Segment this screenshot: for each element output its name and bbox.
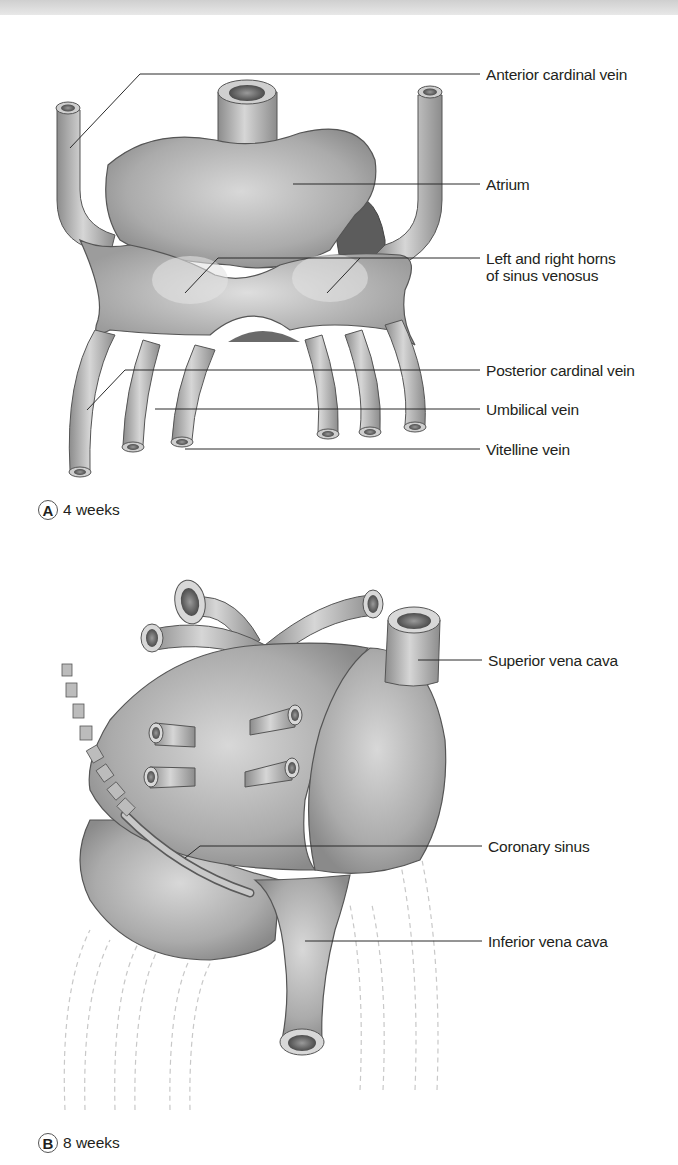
panel-a-caption: A 4 weeks — [38, 500, 120, 520]
panel-b-drawing — [62, 578, 482, 1110]
label-atrium: Atrium — [486, 176, 530, 194]
label-inferior-vena-cava: Inferior vena cava — [488, 933, 608, 951]
label-posterior-cardinal-vein: Posterior cardinal vein — [486, 362, 635, 380]
panel-a-age: 4 weeks — [63, 501, 120, 519]
panel-a-drawing — [56, 74, 480, 477]
label-umbilical-vein: Umbilical vein — [486, 401, 579, 419]
label-sinus-venosus-line2: of sinus venosus — [486, 267, 598, 285]
label-superior-vena-cava: Superior vena cava — [488, 652, 618, 670]
panel-letter-a: A — [38, 500, 58, 520]
label-coronary-sinus: Coronary sinus — [488, 838, 589, 856]
label-sinus-venosus-line1: Left and right horns — [486, 250, 616, 268]
heart-development-illustration — [0, 0, 678, 1165]
panel-b-caption: B 8 weeks — [38, 1133, 120, 1153]
label-vitelline-vein: Vitelline vein — [486, 441, 570, 459]
panel-b-age: 8 weeks — [63, 1134, 120, 1152]
panel-letter-b: B — [38, 1133, 58, 1153]
label-anterior-cardinal-vein: Anterior cardinal vein — [486, 66, 627, 84]
